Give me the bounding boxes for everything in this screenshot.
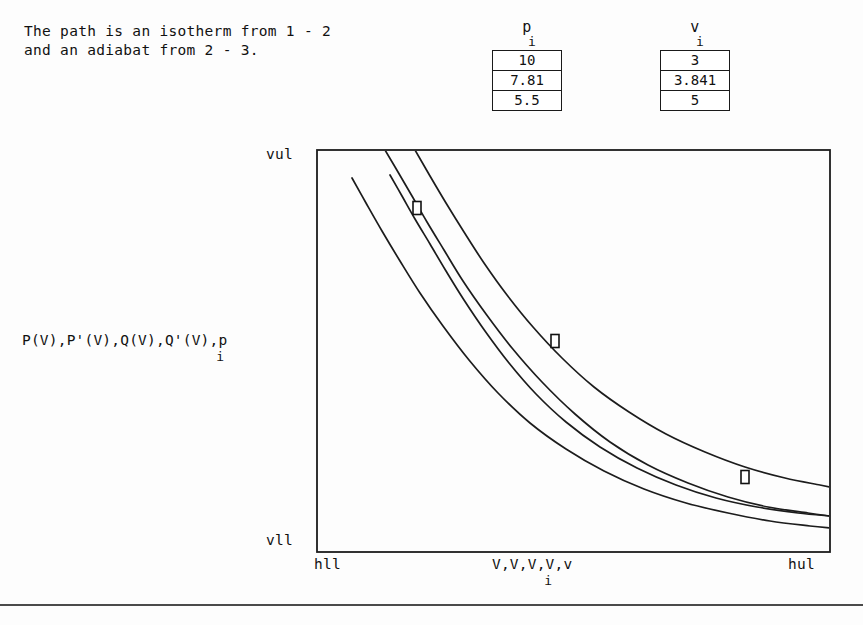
pressure-cell-2: 7.81 [493, 71, 562, 91]
pressure-table: pi 10 7.81 5.5 [492, 20, 562, 111]
plot-frame [317, 150, 830, 552]
plot-curves [352, 150, 830, 528]
table-row: 10 [493, 51, 562, 71]
table-row: 5.5 [493, 91, 562, 111]
volume-cell-2: 3.841 [661, 71, 730, 91]
pressure-table-grid: 10 7.81 5.5 [492, 50, 562, 111]
volume-subscript: i [665, 35, 735, 49]
pressure-cell-1: 10 [493, 51, 562, 71]
caption-line-1: The path is an isotherm from 1 - 2 [24, 23, 331, 39]
figure-caption: The path is an isotherm from 1 - 2 and a… [24, 22, 331, 60]
plot-border [317, 150, 830, 552]
pressure-cell-3: 5.5 [493, 91, 562, 111]
x-axis-label: V,V,V,V,vi [492, 556, 572, 588]
x-axis-lower-limit-label: hll [314, 556, 341, 572]
table-row: 7.81 [493, 71, 562, 91]
x-axis-label-subscript: i [508, 573, 588, 588]
curve-qv [415, 150, 830, 487]
y-axis-label: P(V),P'(V),Q(V),Q'(V),pi [22, 332, 227, 364]
curve-pv [385, 150, 830, 516]
data-point-marker-3 [741, 471, 749, 484]
curve-pv [352, 178, 830, 528]
x-axis-label-text: V,V,V,V,v [492, 556, 572, 572]
y-axis-lower-limit-label: vll [266, 532, 293, 548]
y-axis-label-text: P(V),P'(V),Q(V),Q'(V),p [22, 332, 227, 348]
volume-cell-1: 3 [661, 51, 730, 71]
data-point-marker-2 [551, 335, 559, 348]
curve-qv [390, 175, 830, 516]
pressure-table-header: pi [492, 20, 562, 49]
caption-line-2: and an adiabat from 2 - 3. [24, 42, 259, 58]
volume-table-grid: 3 3.841 5 [660, 50, 730, 111]
table-row: 3 [661, 51, 730, 71]
volume-cell-3: 5 [661, 91, 730, 111]
pv-diagram-canvas [0, 0, 863, 600]
pressure-subscript: i [497, 35, 567, 49]
y-axis-label-subscript: i [22, 349, 227, 364]
y-axis-upper-limit-label: vul [266, 146, 293, 162]
table-row: 3.841 [661, 71, 730, 91]
page-footer-rule [0, 604, 863, 606]
pv-diagram [0, 0, 863, 600]
data-point-marker-1 [413, 202, 421, 215]
volume-table: vi 3 3.841 5 [660, 20, 730, 111]
volume-table-header: vi [660, 20, 730, 49]
x-axis-upper-limit-label: hul [788, 556, 815, 572]
plot-markers [413, 202, 749, 484]
table-row: 5 [661, 91, 730, 111]
